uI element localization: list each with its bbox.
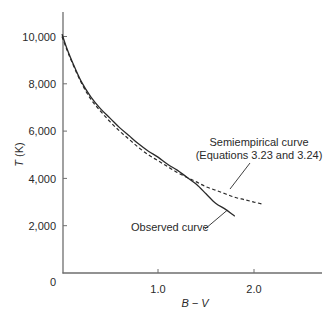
semiempirical-curve-line [62,37,264,205]
semiempirical-label-line-2: (Equations 3.23 and 3.24) [184,149,332,162]
y-axis-title: T (K) [13,138,26,172]
semiempirical-curve [62,37,264,205]
y-tick-label-10000: 10,000 [8,31,56,44]
y-tick-label-2000: 2,000 [8,220,56,233]
y-axis-title-unit: (K) [13,142,25,160]
observed-curve-line [62,34,235,216]
y-tick-label-8000: 8,000 [8,78,56,91]
x-axis-title: B − V [175,297,215,310]
x-tick-label-1: 1.0 [143,283,173,296]
semiempirical-label-line-1: Semiempirical curve [184,136,332,149]
y-axis-title-variable: T [13,160,25,167]
x-tick-label-2: 2.0 [239,283,269,296]
semiempirical-curve-label: Semiempirical curve (Equations 3.23 and … [184,136,332,162]
origin-label: 0 [8,276,56,289]
observed-curve [62,34,235,216]
annotation-leaders [205,163,250,229]
y-tick-label-4000: 4,000 [8,173,56,186]
y-tick-label-6000: 6,000 [8,125,56,138]
semiempirical-leader-line [230,163,250,189]
observed-curve-label: Observed curve [131,221,209,234]
